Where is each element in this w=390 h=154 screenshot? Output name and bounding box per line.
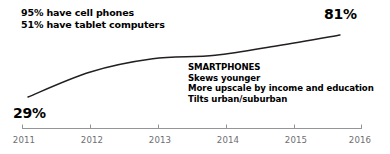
annotation-line: 95% have cell phones xyxy=(21,7,165,19)
annotation-line: Skews younger xyxy=(188,73,374,84)
x-tick-label-2015: 2015 xyxy=(285,135,307,145)
x-tick-label-2012: 2012 xyxy=(81,135,103,145)
x-axis-ticks xyxy=(23,125,362,129)
x-tick-label-2011: 2011 xyxy=(13,135,35,145)
x-tick-label-2014: 2014 xyxy=(217,135,239,145)
data-label-end: 81% xyxy=(324,6,357,22)
annotation-line: More upscale by income and education xyxy=(188,83,374,94)
x-tick-label-2013: 2013 xyxy=(149,135,171,145)
annotation-cell-phone-tablet: 95% have cell phones 51% have tablet com… xyxy=(21,7,165,31)
smartphone-adoption-chart: 95% have cell phones 51% have tablet com… xyxy=(0,0,390,154)
annotation-line: 51% have tablet computers xyxy=(21,19,165,31)
annotation-smartphones: SMARTPHONES Skews younger More upscale b… xyxy=(188,62,374,104)
x-tick-label-2016: 2016 xyxy=(349,135,371,145)
data-label-start: 29% xyxy=(13,105,46,121)
annotation-heading: SMARTPHONES xyxy=(188,62,374,73)
annotation-line: Tilts urban/suburban xyxy=(188,94,374,105)
